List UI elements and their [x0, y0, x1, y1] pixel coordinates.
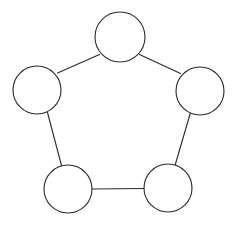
graph-node-top[interactable]	[95, 12, 145, 62]
graph-node-right[interactable]	[176, 67, 224, 115]
node-circle-top[interactable]	[95, 12, 145, 62]
edge-bottomright-bottomleft	[92, 189, 144, 190]
node-circle-left[interactable]	[13, 66, 61, 114]
graph-node-bottom-right[interactable]	[144, 164, 192, 212]
graph-node-left[interactable]	[13, 66, 61, 114]
graph-node-bottom-left[interactable]	[44, 165, 92, 213]
diagram-canvas	[0, 0, 236, 229]
cycle-graph	[0, 0, 236, 229]
node-circle-bottom-right[interactable]	[144, 164, 192, 212]
node-circle-right[interactable]	[176, 67, 224, 115]
node-circle-bottom-left[interactable]	[44, 165, 92, 213]
